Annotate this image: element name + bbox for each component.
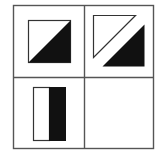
black-half-rectangle (50, 88, 66, 141)
cell-top-left (29, 21, 71, 63)
cell-top-right (94, 16, 145, 67)
cell-bottom-left (34, 88, 66, 141)
white-half-rectangle (34, 88, 50, 141)
puzzle-matrix (0, 0, 162, 154)
